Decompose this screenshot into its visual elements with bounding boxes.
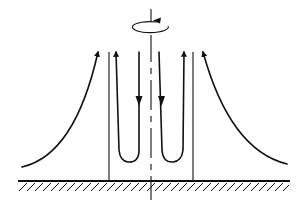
inner-flow-loop-left: [116, 52, 143, 162]
ground-plane: [18, 181, 290, 191]
outer-flow-curve-left: [22, 52, 98, 167]
inner-flow-loop-right: [158, 52, 184, 162]
vortex-diagram: [0, 0, 300, 210]
rotation-arrow-icon: [132, 18, 168, 33]
outer-flow-curve-right: [203, 52, 287, 164]
